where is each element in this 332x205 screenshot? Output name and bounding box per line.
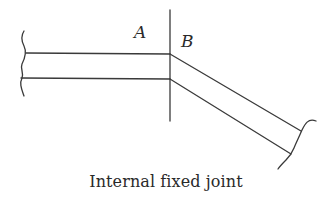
- left-member-bottom-edge: [21, 78, 170, 79]
- left-member-top-edge: [26, 53, 170, 54]
- label-b: B: [181, 31, 194, 51]
- right-break-line: [278, 120, 316, 169]
- diagram-canvas: A B Internal fixed joint: [0, 0, 332, 205]
- label-a: A: [134, 22, 146, 42]
- left-break-line: [21, 31, 26, 96]
- figure-caption: Internal fixed joint: [0, 172, 332, 191]
